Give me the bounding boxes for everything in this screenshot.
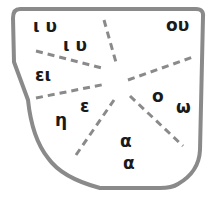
divider-right <box>128 57 193 80</box>
label-eta: η <box>55 112 67 129</box>
label-alpha-upper: α <box>120 133 132 150</box>
label-omicron: ο <box>152 88 164 105</box>
label-iu-second: ι υ <box>63 37 87 54</box>
label-omega: ω <box>176 99 191 116</box>
label-iu-top: ι υ <box>33 18 57 35</box>
label-ei: ει <box>35 67 51 84</box>
divider-left <box>36 84 106 98</box>
sector-dividers <box>36 20 193 155</box>
label-ou: ου <box>166 17 189 34</box>
divider-top <box>104 20 117 66</box>
label-alpha-lower: α <box>123 155 135 172</box>
label-epsilon: ε <box>80 98 89 115</box>
